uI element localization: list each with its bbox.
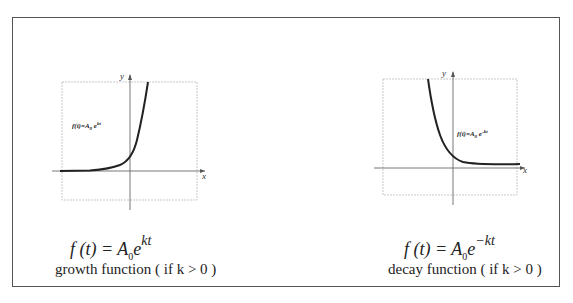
decay-graph: y x f(t)=A0 e-kt <box>360 60 560 220</box>
svg-text:f(t)=A0 e-kt: f(t)=A0 e-kt <box>457 129 488 139</box>
decay-caption: decay function ( if k > 0 ) <box>388 261 542 278</box>
growth-graph: y x f(t)=A0 ekt <box>40 60 240 220</box>
decay-equation: f (t) = A0e−kt <box>404 236 495 262</box>
svg-text:f(t)=A0 ekt: f(t)=A0 ekt <box>72 121 101 131</box>
growth-equation: f (t) = A0ekt <box>70 236 151 262</box>
equation-lhs: f (t) = <box>70 239 117 259</box>
equation-exponent: kt <box>141 233 151 248</box>
growth-caption: growth function ( if k > 0 ) <box>55 261 216 278</box>
equation-exponent: −kt <box>475 233 495 248</box>
svg-text:y: y <box>119 71 124 81</box>
equation-coef: A <box>117 239 128 259</box>
svg-text:x: x <box>201 171 206 181</box>
svg-text:x: x <box>522 165 527 175</box>
equation-coef: A <box>451 239 462 259</box>
equation-lhs: f (t) = <box>404 239 451 259</box>
svg-text:y: y <box>441 68 446 78</box>
